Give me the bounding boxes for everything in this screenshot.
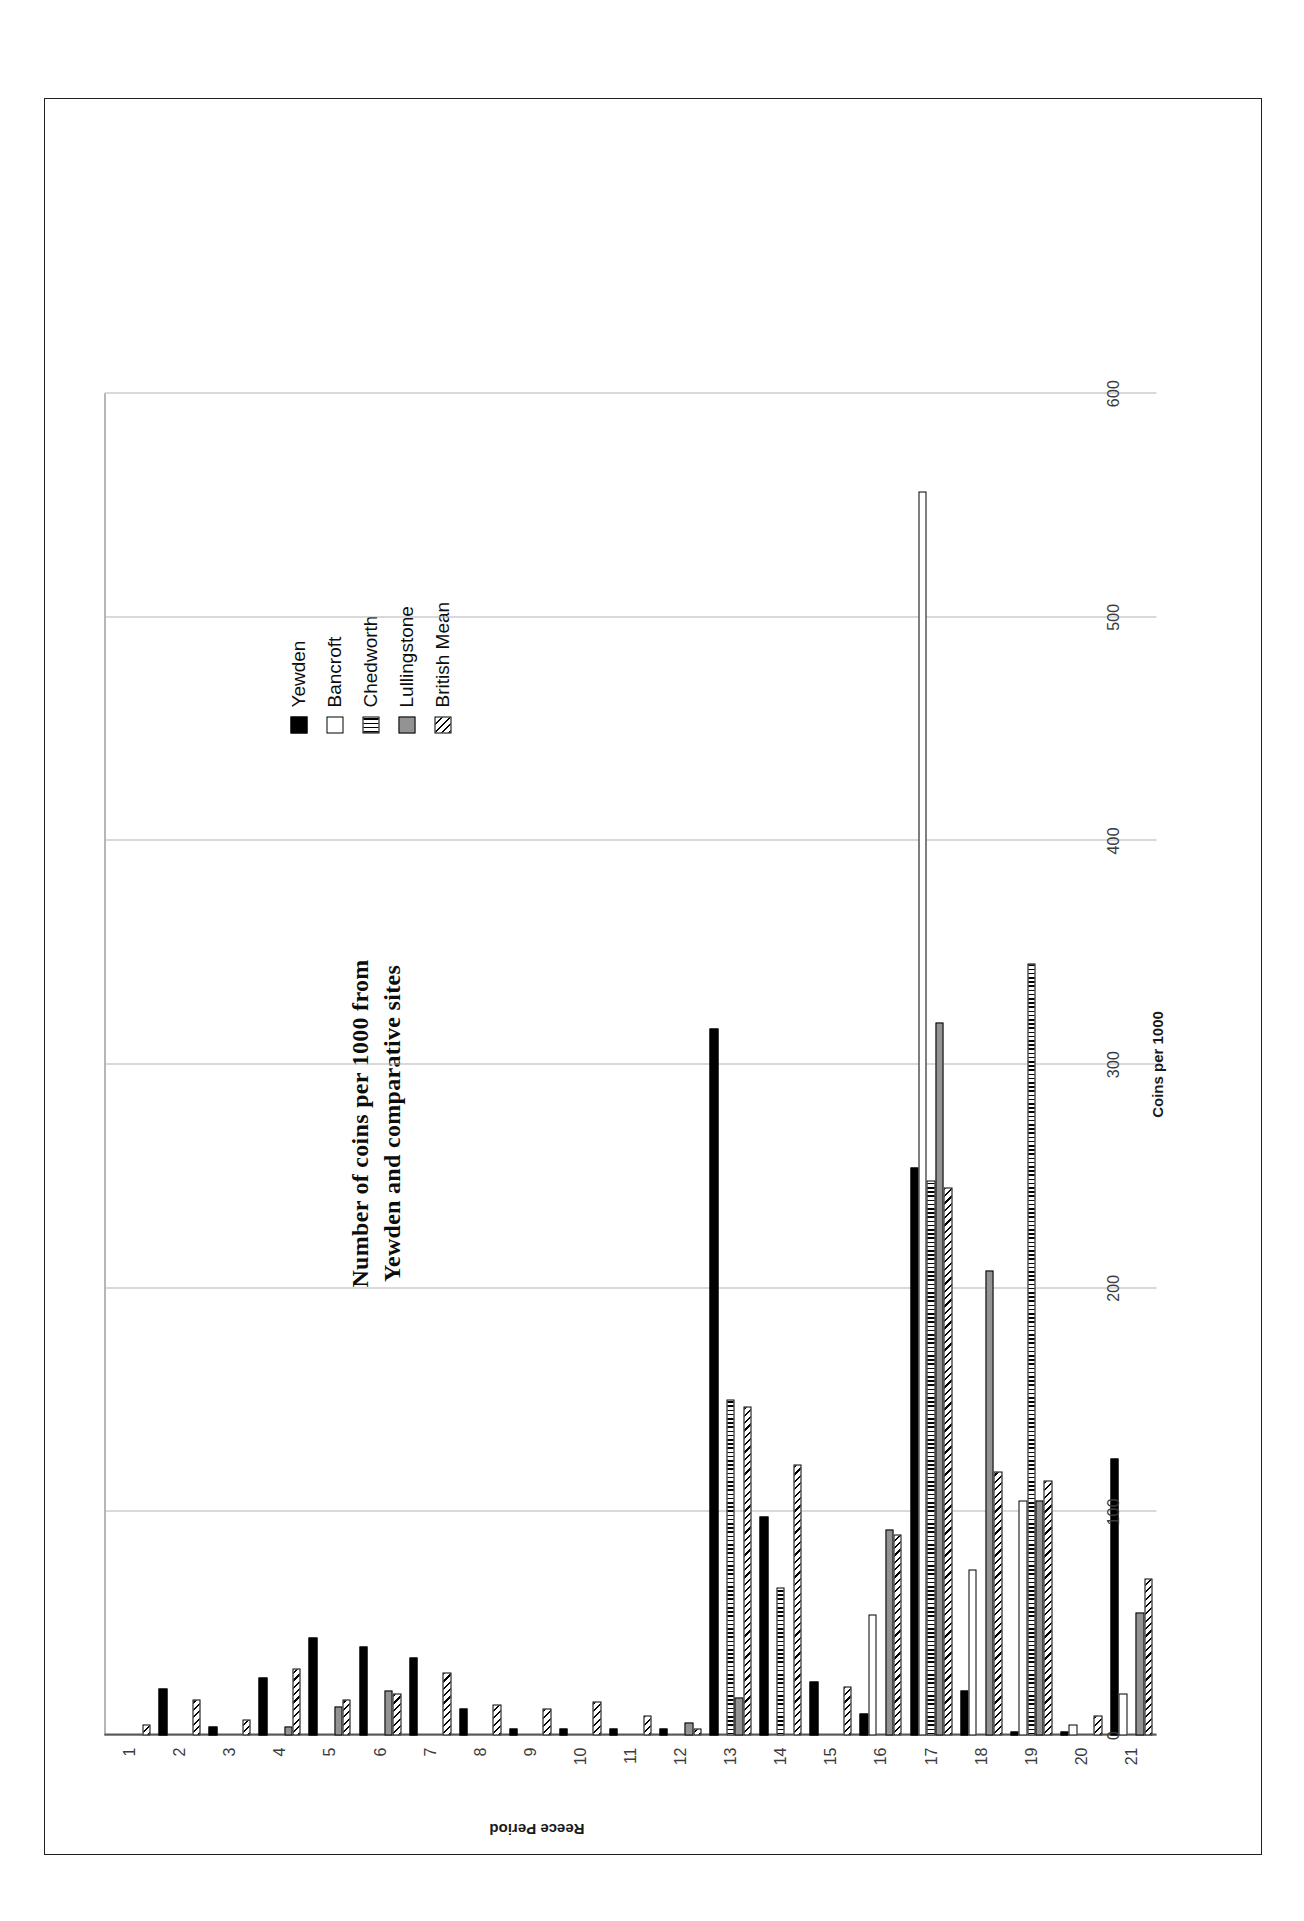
category-tick-8: 8 — [471, 1747, 489, 1793]
bar-yewden-period-4 — [258, 1677, 266, 1735]
plot-area — [104, 393, 1156, 1735]
bar-yewden-period-9 — [509, 1728, 517, 1735]
bar-british-mean-period-19 — [1043, 1480, 1051, 1735]
bar-lullingstone-period-12 — [684, 1722, 692, 1735]
bar-british-mean-period-8 — [492, 1704, 500, 1735]
category-tick-10: 10 — [571, 1747, 589, 1793]
category-tick-7: 7 — [421, 1747, 439, 1793]
bar-yewden-period-20 — [1060, 1731, 1068, 1735]
category-tick-16: 16 — [871, 1747, 889, 1793]
bar-yewden-period-10 — [559, 1728, 567, 1735]
bar-lullingstone-period-16 — [885, 1529, 893, 1735]
bar-british-mean-period-6 — [392, 1693, 400, 1735]
bar-yewden-period-16 — [859, 1713, 867, 1735]
bar-bancroft-period-16 — [868, 1614, 876, 1735]
bar-british-mean-period-13 — [743, 1406, 751, 1735]
category-band — [956, 393, 1006, 1735]
bar-yewden-period-7 — [409, 1657, 417, 1735]
bar-yewden-period-15 — [809, 1681, 817, 1735]
category-band — [405, 393, 455, 1735]
bar-yewden-period-3 — [208, 1726, 216, 1735]
bar-british-mean-period-5 — [342, 1699, 350, 1735]
bar-yewden-period-14 — [759, 1516, 767, 1735]
value-tick-500: 500 — [1104, 587, 1122, 647]
value-tick-0: 0 — [1104, 1705, 1122, 1765]
bar-british-mean-period-9 — [542, 1708, 550, 1735]
bar-lullingstone-period-5 — [334, 1706, 342, 1735]
bar-british-mean-period-3 — [242, 1719, 250, 1735]
value-tick-200: 200 — [1104, 1258, 1122, 1318]
category-tick-14: 14 — [771, 1747, 789, 1793]
bar-british-mean-period-12 — [693, 1728, 701, 1735]
category-band — [705, 393, 755, 1735]
bar-yewden-period-13 — [709, 1028, 717, 1735]
category-band — [154, 393, 204, 1735]
bar-british-mean-period-4 — [292, 1668, 300, 1735]
bar-bancroft-period-18 — [968, 1570, 976, 1736]
category-tick-13: 13 — [721, 1747, 739, 1793]
category-band — [906, 393, 956, 1735]
category-tick-15: 15 — [821, 1747, 839, 1793]
bar-bancroft-period-20 — [1068, 1724, 1076, 1735]
category-band — [605, 393, 655, 1735]
category-band — [505, 393, 555, 1735]
bar-lullingstone-period-18 — [985, 1270, 993, 1735]
bar-yewden-period-11 — [609, 1728, 617, 1735]
category-band — [655, 393, 705, 1735]
bar-british-mean-period-17 — [943, 1187, 951, 1735]
category-tick-4: 4 — [270, 1747, 288, 1793]
bar-yewden-period-8 — [459, 1708, 467, 1735]
bar-british-mean-period-18 — [993, 1471, 1001, 1735]
bar-british-mean-period-20 — [1093, 1715, 1101, 1735]
bar-british-mean-period-10 — [592, 1701, 600, 1735]
category-tick-19: 19 — [1022, 1747, 1040, 1793]
category-tick-9: 9 — [521, 1747, 539, 1793]
chart-canvas: Number of coins per 1000 from Yewden and… — [44, 98, 1260, 1853]
category-tick-3: 3 — [220, 1747, 238, 1793]
bar-chedworth-period-19 — [1027, 963, 1035, 1735]
bar-yewden-period-12 — [659, 1728, 667, 1735]
value-tick-600: 600 — [1104, 363, 1122, 423]
category-tick-17: 17 — [922, 1747, 940, 1793]
bar-british-mean-period-11 — [643, 1715, 651, 1735]
bar-yewden-period-2 — [158, 1688, 166, 1735]
category-tick-21: 21 — [1122, 1747, 1140, 1793]
category-tick-18: 18 — [972, 1747, 990, 1793]
bar-british-mean-period-16 — [893, 1534, 901, 1735]
bar-lullingstone-period-4 — [284, 1726, 292, 1735]
category-band — [304, 393, 354, 1735]
bar-british-mean-period-7 — [442, 1672, 450, 1735]
rotated-chart-wrapper: Number of coins per 1000 from Yewden and… — [44, 98, 1260, 1853]
bar-yewden-period-17 — [910, 1167, 918, 1735]
bar-bancroft-period-17 — [918, 491, 926, 1735]
value-tick-100: 100 — [1104, 1481, 1122, 1541]
category-band — [455, 393, 505, 1735]
category-tick-6: 6 — [371, 1747, 389, 1793]
bar-lullingstone-period-6 — [384, 1690, 392, 1735]
bar-chedworth-period-14 — [776, 1587, 784, 1735]
category-tick-5: 5 — [320, 1747, 338, 1793]
bar-lullingstone-period-13 — [734, 1697, 742, 1735]
bar-british-mean-period-14 — [793, 1464, 801, 1735]
category-axis-title: Reece Period — [489, 1820, 584, 1837]
category-band — [104, 393, 154, 1735]
category-band — [555, 393, 605, 1735]
bar-lullingstone-period-17 — [935, 1022, 943, 1735]
value-tick-400: 400 — [1104, 810, 1122, 870]
bar-yewden-period-5 — [308, 1637, 316, 1735]
category-band — [254, 393, 304, 1735]
category-band — [354, 393, 404, 1735]
figure-page: Number of coins per 1000 from Yewden and… — [0, 0, 1304, 1921]
bar-bancroft-period-19 — [1018, 1500, 1026, 1735]
bar-lullingstone-period-19 — [1035, 1500, 1043, 1735]
bar-british-mean-period-2 — [192, 1699, 200, 1735]
bar-yewden-period-18 — [960, 1690, 968, 1735]
bar-yewden-period-19 — [1010, 1731, 1018, 1735]
category-band — [855, 393, 905, 1735]
category-tick-12: 12 — [671, 1747, 689, 1793]
bar-yewden-period-6 — [359, 1646, 367, 1735]
bar-chedworth-period-13 — [726, 1400, 734, 1736]
category-tick-1: 1 — [120, 1747, 138, 1793]
category-tick-20: 20 — [1072, 1747, 1090, 1793]
category-band — [204, 393, 254, 1735]
